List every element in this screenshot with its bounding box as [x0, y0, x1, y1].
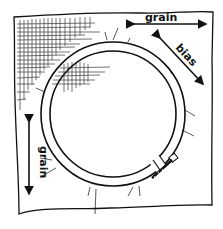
grain-top-label: grain	[145, 11, 177, 24]
grain-left-label: grain	[37, 146, 50, 178]
diagram-canvas: grain bias grain	[0, 0, 223, 229]
fabric-grain-diagram: grain bias grain	[0, 0, 223, 229]
